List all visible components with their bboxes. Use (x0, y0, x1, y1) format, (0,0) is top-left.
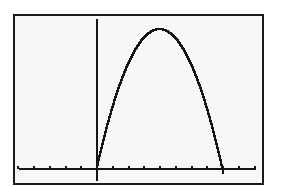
parabola-curve (97, 29, 223, 169)
graph-plot (0, 0, 281, 187)
parabola-path (97, 29, 223, 169)
calculator-graph (0, 0, 281, 187)
